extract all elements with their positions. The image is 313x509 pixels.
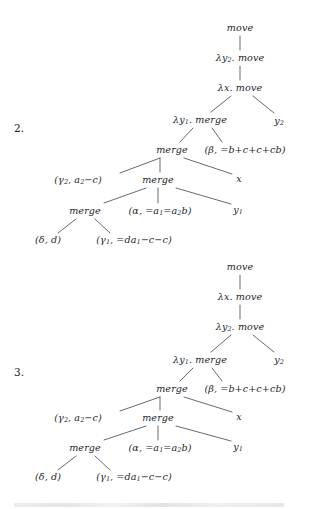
tree-node-t2-lam-y2: λy2. move: [216, 53, 265, 64]
tree-edge: [212, 128, 222, 142]
tree-edge: [176, 188, 231, 204]
tree-node-t3-alpha: (α, =a1=a2b): [128, 443, 191, 454]
tree-node-t2-gamma2: (γ2, a2−c): [54, 175, 102, 186]
tree-node-t2-move-root: move: [227, 23, 253, 33]
tree-edge: [211, 335, 231, 352]
tree-node-t3-gamma1: (γ1, =da1−c−c): [96, 472, 172, 483]
tree-edge: [180, 128, 193, 142]
tree-edges: [0, 0, 313, 509]
tree-edge: [58, 456, 76, 470]
tree-node-t3-move-root: move: [227, 262, 253, 272]
tree-node-t3-merge-1: merge: [156, 384, 188, 394]
tree-edge: [180, 368, 193, 381]
tree-edge: [104, 426, 146, 440]
tree-edge: [120, 397, 160, 411]
tree-node-t2-merge-2: merge: [142, 175, 174, 185]
tree-node-t2-alpha: (α, =a1=a2b): [128, 206, 191, 217]
tree-edge: [95, 456, 110, 470]
tree-node-t3-y2: y2: [274, 355, 284, 366]
page-bottom-cutoff-text: [14, 503, 284, 507]
tree-node-t2-delta: (δ, d): [35, 235, 61, 245]
tree-edge: [58, 219, 76, 233]
tree-node-t2-gamma1: (γ1, =da1−c−c): [96, 235, 172, 246]
tree-node-t3-lam-y1: λy1. merge: [173, 355, 227, 366]
tree-edge: [253, 96, 274, 113]
tree-node-t3-delta: (δ, d): [35, 472, 61, 482]
tree-node-t3-x: x: [236, 412, 242, 422]
tree-edge: [95, 219, 110, 233]
tree-node-t2-x: x: [236, 174, 242, 184]
tree-node-t3-beta: (β, =b+c+c+cb): [204, 384, 285, 394]
item-number-2: 3.: [14, 366, 24, 378]
tree-node-t2-beta: (β, =b+c+c+cb): [204, 145, 285, 155]
tree-edge: [176, 426, 231, 441]
tree-node-t3-lam-x: λx. move: [218, 292, 262, 302]
tree-edge: [253, 335, 274, 352]
tree-node-t2-y2: y2: [274, 116, 284, 127]
item-number-1: 2.: [14, 122, 24, 134]
tree-node-t3-lam-y2: λy2. move: [216, 322, 265, 333]
tree-edge: [211, 96, 231, 112]
tree-node-t3-merge-2: merge: [142, 413, 174, 423]
tree-node-t2-merge-3: merge: [69, 206, 101, 216]
tree-node-t2-merge-1: merge: [156, 145, 188, 155]
tree-edge: [212, 368, 222, 381]
tree-node-t2-lam-x: λx. move: [218, 83, 262, 93]
tree-edge: [184, 397, 232, 412]
tree-node-t3-merge-3: merge: [69, 443, 101, 453]
tree-node-t3-y1: y1: [233, 442, 243, 453]
tree-edge: [120, 158, 160, 173]
tree-edge: [104, 188, 146, 203]
tree-node-t2-y1: y1: [233, 205, 243, 216]
tree-node-t3-gamma2: (γ2, a2−c): [54, 413, 102, 424]
tree-node-t2-lam-y1: λy1. merge: [173, 115, 227, 126]
tree-edge: [184, 158, 232, 174]
